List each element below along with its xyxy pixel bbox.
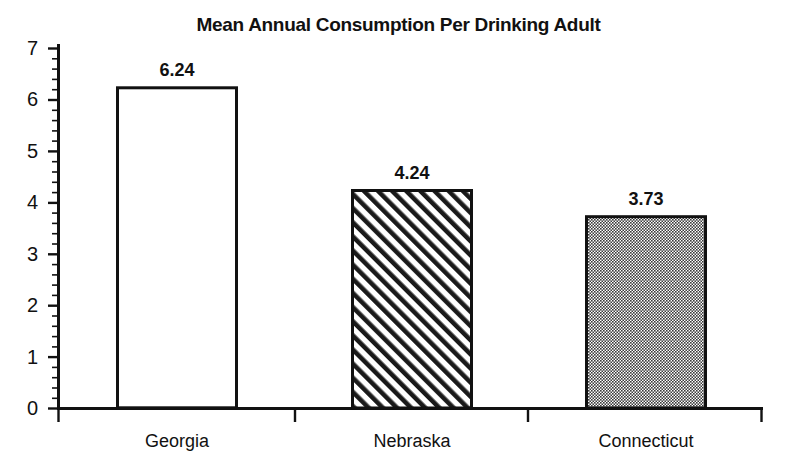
bar-value-label-georgia: 6.24 xyxy=(117,61,237,79)
y-axis-major-ticks xyxy=(48,49,58,409)
x-axis-category-georgia: Georgia xyxy=(117,432,237,450)
x-axis-category-connecticut: Connecticut xyxy=(586,432,706,450)
bar-georgia[interactable] xyxy=(118,88,237,408)
y-axis-label-2: 2 xyxy=(8,295,38,315)
bar-nebraska[interactable] xyxy=(353,191,472,409)
x-axis-category-nebraska: Nebraska xyxy=(352,432,472,450)
y-axis-label-6: 6 xyxy=(8,89,38,109)
y-axis-label-1: 1 xyxy=(8,347,38,367)
x-axis-ticks xyxy=(59,409,762,422)
bar-connecticut[interactable] xyxy=(587,217,706,408)
bar-value-label-nebraska: 4.24 xyxy=(352,164,472,182)
y-axis-label-3: 3 xyxy=(8,244,38,264)
bar-value-label-connecticut: 3.73 xyxy=(586,190,706,208)
bar-chart-figure: Mean Annual Consumption Per Drinking Adu… xyxy=(0,0,797,461)
y-axis-label-4: 4 xyxy=(8,192,38,212)
y-axis-label-5: 5 xyxy=(8,141,38,161)
y-axis-label-7: 7 xyxy=(8,38,38,58)
y-axis-label-0: 0 xyxy=(8,398,38,418)
